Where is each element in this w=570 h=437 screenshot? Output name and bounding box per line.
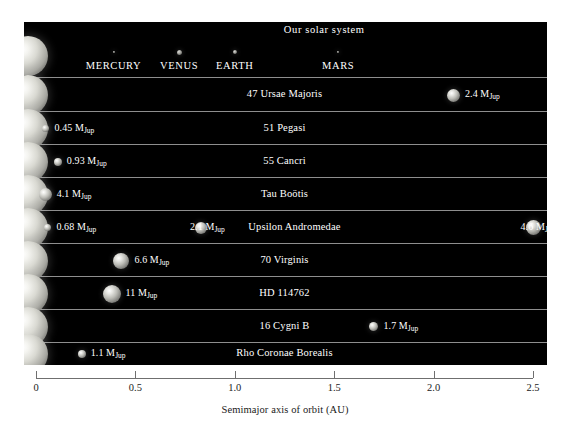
x-axis-tick-label: 2.5 — [526, 382, 539, 393]
system-row: Tau Boötis4.1 MJup — [24, 178, 547, 211]
planet-mass-label: 4.6 MJup — [521, 221, 548, 234]
planet-name-label: MERCURY — [86, 60, 142, 71]
x-axis-line — [36, 378, 533, 379]
system-row: Upsilon Andromedae0.68 MJup2.1 MJup4.6 M… — [24, 211, 547, 244]
system-row: HD 11476211 MJup — [24, 277, 547, 310]
x-axis-label: Semimajor axis of orbit (AU) — [0, 404, 570, 415]
x-axis-tick — [135, 371, 136, 378]
planet-mass-label: 0.93 MJup — [67, 155, 107, 168]
exoplanet-systems-figure: Our solar systemMERCURYVENUSEARTHMARS47 … — [0, 0, 570, 437]
planet-mass-label: 0.68 MJup — [56, 221, 96, 234]
system-row: Our solar systemMERCURYVENUSEARTHMARS — [24, 22, 547, 78]
planet-marker — [177, 50, 182, 55]
x-axis-tick — [434, 371, 435, 378]
x-axis-tick — [533, 371, 534, 378]
system-name-label: Upsilon Andromedae — [248, 221, 340, 232]
planet-mass-label: 0.45 MJup — [54, 122, 94, 135]
planet-marker — [54, 158, 62, 166]
planet-mass-label: 6.6 MJup — [134, 254, 169, 267]
planet-mass-label: 2.1 MJup — [190, 221, 225, 234]
system-row: 47 Ursae Majoris2.4 MJup — [24, 78, 547, 112]
x-axis-tick — [334, 371, 335, 378]
central-star — [24, 36, 48, 76]
system-name-label: Tau Boötis — [261, 188, 308, 199]
system-row: 16 Cygni B1.7 MJup — [24, 310, 547, 343]
planet-mass-label: 2.4 MJup — [465, 88, 500, 101]
x-axis-tick-label: 1.5 — [328, 382, 341, 393]
planet-marker — [103, 285, 121, 303]
system-name-label: 70 Virginis — [260, 254, 308, 265]
planet-marker — [39, 188, 52, 201]
planet-name-label: EARTH — [216, 60, 253, 71]
plot-area: Our solar systemMERCURYVENUSEARTHMARS47 … — [24, 22, 547, 365]
planet-name-label: MARS — [322, 60, 354, 71]
planet-mass-label: 4.1 MJup — [57, 188, 92, 201]
system-row: 55 Cancri0.93 MJup — [24, 145, 547, 178]
system-name-label: 47 Ursae Majoris — [247, 88, 322, 99]
planet-marker — [113, 253, 129, 269]
planet-mass-label: 1.7 MJup — [383, 320, 418, 333]
planet-marker — [44, 224, 51, 231]
planet-marker — [447, 89, 460, 102]
planet-marker — [113, 51, 115, 53]
system-row: Rho Coronae Borealis1.1 MJup — [24, 343, 547, 365]
system-row: 70 Virginis6.6 MJup — [24, 244, 547, 277]
planet-marker — [233, 50, 237, 54]
planet-marker — [337, 51, 339, 53]
system-name-label: 55 Cancri — [263, 155, 305, 166]
system-name-label: 16 Cygni B — [260, 320, 310, 331]
x-axis-tick-label: 0 — [33, 382, 38, 393]
x-axis-tick-label: 0.5 — [129, 382, 142, 393]
planet-name-label: VENUS — [160, 60, 198, 71]
system-row: 51 Pegasi0.45 MJup — [24, 112, 547, 145]
x-axis-tick-label: 1.0 — [228, 382, 241, 393]
x-axis-tick — [235, 371, 236, 378]
planet-mass-label: 11 MJup — [126, 287, 158, 300]
x-axis-tick — [36, 371, 37, 378]
planet-marker — [78, 350, 86, 358]
planet-mass-label: 1.1 MJup — [91, 347, 126, 360]
system-name-label: HD 114762 — [259, 287, 309, 298]
planet-marker — [42, 125, 49, 132]
x-axis-tick-label: 2.0 — [427, 382, 440, 393]
system-name-label: Our solar system — [284, 24, 365, 35]
system-name-label: 51 Pegasi — [264, 122, 306, 133]
system-name-label: Rho Coronae Borealis — [236, 347, 332, 358]
planet-marker — [369, 322, 378, 331]
